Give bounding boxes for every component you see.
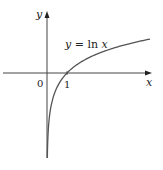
ln-curve [47,39,150,158]
curve-label: y = ln x [64,38,109,51]
origin-label: 0 [37,78,43,89]
ln-graph: y x 0 1 y = ln x [0,0,163,170]
y-axis-label: y [35,8,43,21]
x-axis-label: x [146,76,153,89]
x-axis-arrow-icon [145,71,152,76]
x-tick-label-1: 1 [64,79,70,90]
y-axis-arrow-icon [45,11,50,18]
